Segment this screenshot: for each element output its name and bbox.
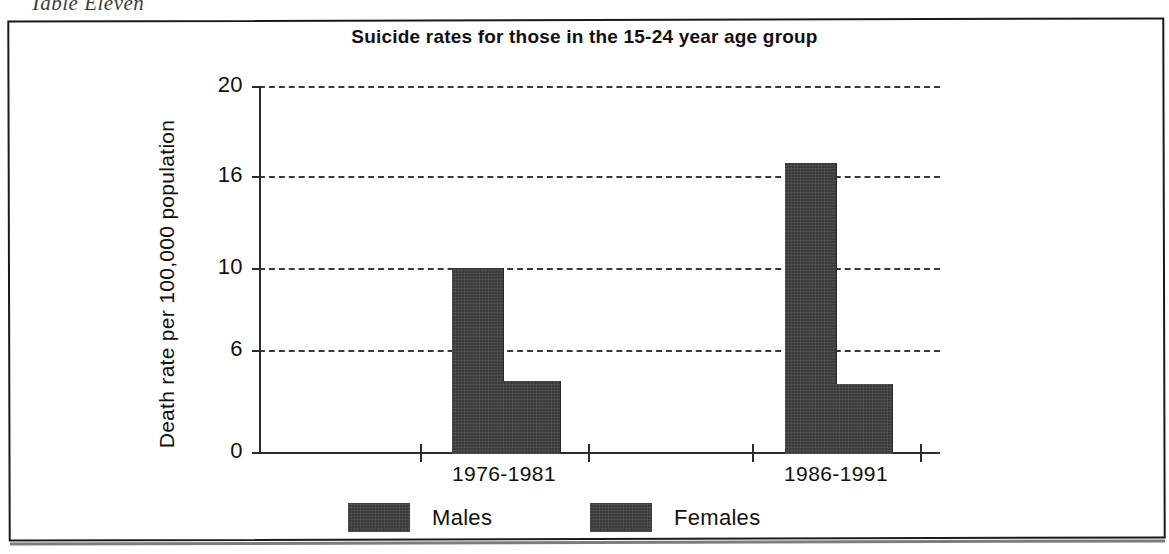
y-tick-mark-16 [252,176,261,178]
y-tick-label-6: 6 [183,336,243,362]
bar-males-1986-1991 [785,163,837,454]
y-tick-mark-10 [252,268,261,270]
y-axis-line [259,86,261,454]
gridline-16 [259,176,940,178]
chart-legend: Males Females [0,500,1169,540]
legend-label-males: Males [432,505,492,531]
legend-swatch-males-icon [348,503,410,532]
legend-label-females: Females [674,505,760,531]
y-tick-mark-0 [252,452,261,454]
x-tick-mark-1 [420,444,422,462]
y-tick-label-0: 0 [183,438,243,464]
x-tick-mark-2 [588,444,590,462]
legend-item-females: Females [590,503,760,532]
plot-area: 20 16 10 6 0 1976-1981 1986-1991 [0,0,1169,554]
legend-swatch-females-icon [590,503,652,532]
x-tick-label-1986-1991: 1986-1991 [736,462,936,486]
y-tick-mark-6 [252,350,261,352]
legend-item-males: Males [348,503,492,532]
y-tick-label-20: 20 [183,72,243,98]
bar-females-1986-1991 [836,384,893,454]
gridline-6 [259,350,940,352]
bar-females-1976-1981 [503,381,561,454]
y-tick-label-16: 16 [183,162,243,188]
gridline-10 [259,268,940,270]
y-tick-mark-20 [252,86,261,88]
x-tick-label-1976-1981: 1976-1981 [404,462,604,486]
x-tick-mark-3 [752,444,754,462]
bar-males-1976-1981 [452,268,504,454]
gridline-20 [259,86,940,88]
y-tick-label-10: 10 [183,254,243,280]
x-tick-mark-4 [920,444,922,462]
